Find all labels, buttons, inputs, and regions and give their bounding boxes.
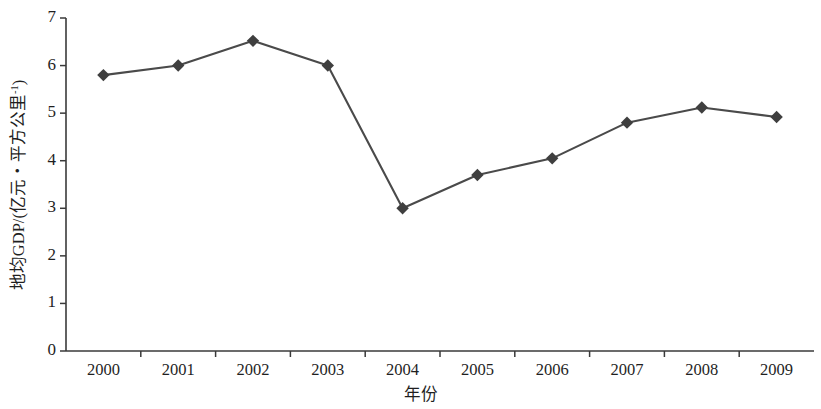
y-axis-ticks [60,18,66,351]
x-axis-tick-label: 2000 [68,360,138,380]
data-point-marker [247,35,259,47]
data-point-marker [546,152,558,164]
data-point-marker [97,69,109,81]
y-axis-tick-label: 0 [30,340,56,360]
chart-plot-area [0,0,821,409]
chart-container: 地均GDP/(亿元・平方公里-1) 年份 01234567 2000200120… [0,0,821,409]
x-axis-tick-label: 2006 [517,360,587,380]
data-point-marker [770,111,782,123]
x-axis-tick-label: 2005 [442,360,512,380]
data-point-marker [172,59,184,71]
data-point-marker [322,59,334,71]
x-axis-tick-label: 2007 [592,360,662,380]
x-axis-ticks [141,351,739,357]
x-axis-tick-label: 2009 [742,360,812,380]
x-axis-tick-label: 2001 [143,360,213,380]
y-axis-tick-label: 3 [30,197,56,217]
data-point-marker [396,202,408,214]
data-line [103,41,776,208]
y-axis-tick-label: 7 [30,7,56,27]
y-axis-tick-label: 1 [30,292,56,312]
x-axis-tick-label: 2008 [667,360,737,380]
y-axis-tick-label: 2 [30,245,56,265]
x-axis-tick-label: 2003 [293,360,363,380]
x-axis-tick-label: 2004 [368,360,438,380]
data-point-marker [471,169,483,181]
data-point-marker [621,116,633,128]
y-axis-tick-label: 5 [30,102,56,122]
data-point-marker [696,101,708,113]
data-markers [97,35,783,215]
y-axis-tick-label: 6 [30,55,56,75]
y-axis-tick-label: 4 [30,150,56,170]
x-axis-tick-label: 2002 [218,360,288,380]
